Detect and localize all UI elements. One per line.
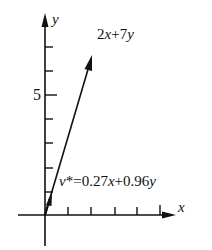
y-tick-label-5: 5 [33,87,41,103]
label-part: y [149,173,156,189]
label-part: *=0.27 [66,173,108,189]
label-part: x [108,173,115,189]
label-part: +7 [111,26,127,42]
label-part: +0.96 [115,173,150,189]
label-part: y [127,26,134,42]
label-part: v [59,173,66,189]
vector-label-v-star: v*=0.27x+0.96y [59,174,156,189]
y-ticks [45,47,57,192]
x-axis-label: x [178,200,185,215]
y-axis-label: y [52,12,59,27]
label-part: 2 [97,26,105,42]
vector-label-2x-7y: 2x+7y [97,27,134,42]
x-ticks [68,205,160,215]
vector-2x-7y [45,66,89,215]
vector-2x-7y-arrowhead-icon [85,55,93,71]
y-axis-arrow-icon [42,13,49,27]
vector-v-star-arrowhead-icon [46,192,52,206]
x-axis-arrow-icon [162,212,176,219]
